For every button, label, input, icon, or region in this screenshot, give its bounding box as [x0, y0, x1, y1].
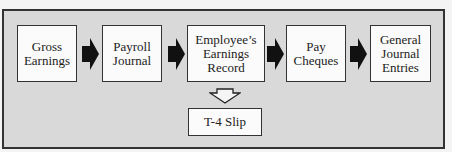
hollow-arrow-down-icon [209, 88, 241, 104]
label-line: Earnings [24, 54, 70, 68]
node-payroll-journal: PayrollJournal [102, 25, 162, 82]
label-line: Record [195, 61, 256, 75]
label-line: Cheques [294, 54, 339, 68]
label-line: Employee’s [195, 33, 256, 47]
label-line: Pay [294, 40, 339, 54]
arrow-right-icon [82, 38, 99, 70]
label-line: Payroll [113, 40, 151, 54]
label-line: T-4 Slip [204, 115, 246, 129]
label-line: Journal [380, 47, 421, 61]
label-line: Entries [380, 61, 421, 75]
node-pay-cheques: PayCheques [286, 25, 346, 82]
node-general-journal-entries: GeneralJournalEntries [370, 25, 431, 82]
arrow-right-icon [350, 38, 367, 70]
node-t4-slip: T-4 Slip [188, 108, 262, 136]
label-line: Earnings [195, 47, 256, 61]
label-line: Gross [24, 40, 70, 54]
node-gross-earnings: GrossEarnings [17, 25, 77, 82]
arrow-right-icon [267, 38, 284, 70]
label-line: General [380, 33, 421, 47]
arrow-right-icon [168, 38, 185, 70]
node-employee-earnings-record: Employee’sEarningsRecord [187, 25, 265, 82]
label-line: Journal [113, 54, 151, 68]
